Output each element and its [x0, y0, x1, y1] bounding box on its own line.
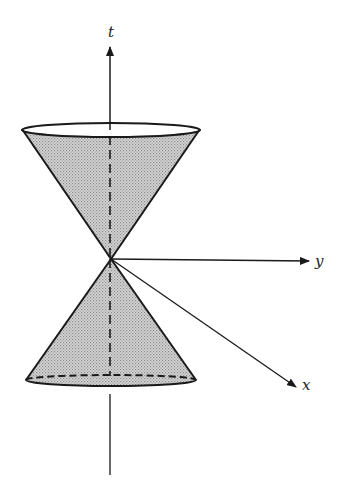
light-cone-diagram: t y x [0, 0, 340, 497]
x-axis-label: x [302, 376, 311, 394]
diagram-canvas: t y x [0, 0, 340, 497]
upper-ellipse [22, 123, 200, 137]
future-cone [22, 123, 200, 259]
past-cone [26, 259, 196, 386]
y-axis [111, 259, 309, 261]
y-axis-label: y [314, 252, 324, 270]
t-axis-label: t [108, 23, 115, 41]
